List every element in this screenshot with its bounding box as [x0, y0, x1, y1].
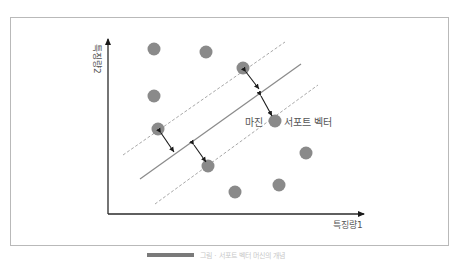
support-vector-point — [237, 62, 250, 75]
support-vector-point — [152, 123, 165, 136]
data-point — [229, 186, 242, 199]
x-axis-label: 특징량1 — [333, 219, 363, 230]
upper-margin-line — [123, 42, 285, 155]
data-point — [273, 179, 286, 192]
margin-label: 마진 — [245, 117, 263, 128]
margin-arrow — [194, 145, 206, 162]
support-vector-label: 서포트 벡터 — [284, 117, 332, 128]
support-vector-point — [202, 160, 215, 173]
margin-arrow — [246, 72, 259, 89]
y-axis-label: 특징량2 — [92, 44, 103, 74]
margin-arrow — [161, 133, 174, 152]
caption-bar — [147, 253, 194, 257]
data-point — [148, 43, 161, 56]
support-vector-point — [269, 115, 282, 128]
margin-arrow — [261, 96, 272, 116]
data-point — [300, 147, 313, 160]
figure-caption: 그림 · 서포트 벡터 머신의 개념 — [200, 252, 285, 260]
data-point — [200, 46, 213, 59]
data-point — [148, 90, 161, 103]
